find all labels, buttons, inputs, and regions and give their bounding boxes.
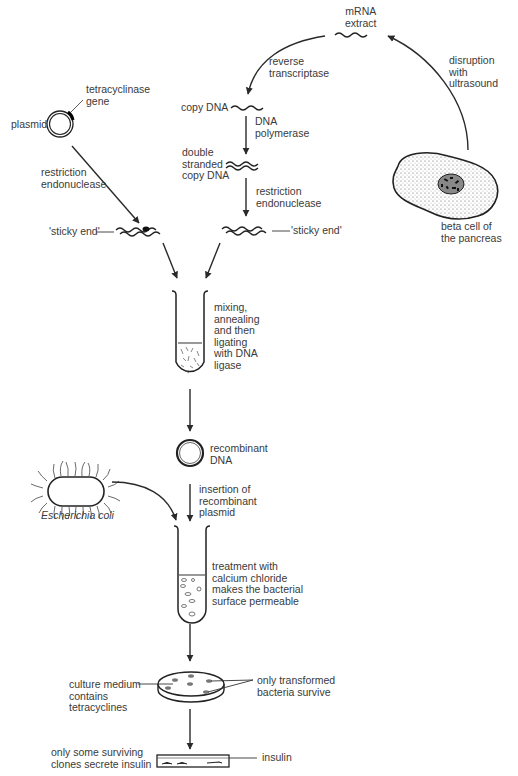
recombinant-dna-label: recombinant DNA <box>210 443 268 466</box>
plasmid-label: plasmid <box>11 119 47 131</box>
double-stranded-label: double stranded copy DNA <box>182 147 229 182</box>
test-tube-calcium-chloride-icon <box>174 526 210 623</box>
beta-cell-icon <box>393 153 498 219</box>
only-transformed-label: only transformed bacteria survive <box>257 675 335 698</box>
insulin-label: insulin <box>262 752 292 764</box>
petri-dish-icon <box>158 672 224 702</box>
insertion-label: insertion of recombinant plasmid <box>199 484 257 519</box>
dna-polymerase-label: DNA polymerase <box>255 116 309 139</box>
sticky-end-right-dna-icon <box>222 227 266 235</box>
disruption-label: disruption with ultrasound <box>449 55 498 90</box>
beta-cell-label: beta cell of the pancreas <box>441 221 502 244</box>
ecoli-to-tube-arrow <box>112 482 176 520</box>
mrna-extract-label: mRNA extract <box>345 6 377 29</box>
sticky-end-left-dna-icon <box>116 227 160 237</box>
ecoli-label: Escherichia coli <box>41 510 114 522</box>
only-some-clones-label: only some surviving clones secrete insul… <box>51 747 151 770</box>
tetracyclinase-gene-label: tetracyclinase gene <box>86 84 150 107</box>
restriction-endonuclease-right-label: restriction endonuclease <box>256 186 321 209</box>
calcium-chloride-treatment-label: treatment with calcium chloride makes th… <box>212 561 303 607</box>
mrna-strand-icon <box>335 33 367 37</box>
left-to-tube-arrow <box>163 243 177 278</box>
right-to-tube-arrow <box>206 243 220 278</box>
reverse-transcriptase-label: reverse transcriptase <box>269 56 329 79</box>
sticky-end-right-label: 'sticky end' <box>291 225 342 237</box>
tetracyclinase-leader <box>70 100 83 113</box>
sticky-end-left-label: 'sticky end' <box>49 226 100 238</box>
restriction-endonuclease-left-label: restriction endonuclease <box>41 167 106 190</box>
culture-medium-label: culture medium contains tetracyclines <box>69 679 141 714</box>
culture-dish-insulin-icon <box>157 755 229 767</box>
copy-dna-strand-icon <box>231 106 263 110</box>
mixing-annealing-label: mixing, annealing and then ligating with… <box>214 302 260 371</box>
plasmid-icon <box>47 111 73 137</box>
copy-dna-label: copy DNA <box>181 102 228 114</box>
recombinant-dna-icon <box>177 440 203 466</box>
test-tube-ligation-icon <box>172 291 208 373</box>
double-stranded-dna-icon <box>226 162 258 170</box>
